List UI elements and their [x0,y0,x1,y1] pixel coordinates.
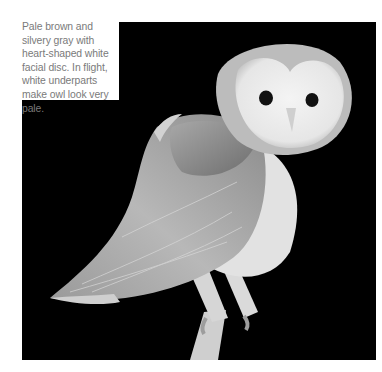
caption-text: Pale brown and silvery gray with heart-s… [22,20,115,115]
caption-box: Pale brown and silvery gray with heart-s… [0,0,119,100]
